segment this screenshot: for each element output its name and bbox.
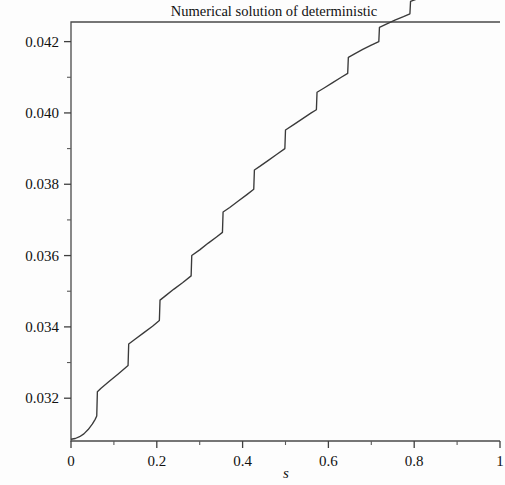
x-tick-label: 0.2 bbox=[147, 453, 166, 469]
x-tick-label: 0.4 bbox=[233, 453, 252, 469]
chart-title: Numerical solution of deterministic bbox=[171, 3, 378, 19]
x-tick-label: 0.8 bbox=[405, 453, 424, 469]
numerical-solution-chart: Numerical solution of deterministic 0.03… bbox=[0, 0, 505, 485]
x-tick-label: 0 bbox=[67, 453, 75, 469]
y-tick-label: 0.038 bbox=[25, 176, 59, 192]
y-tick-label: 0.034 bbox=[25, 319, 59, 335]
y-tick-label: 0.032 bbox=[25, 390, 59, 406]
chart-figure: Numerical solution of deterministic 0.03… bbox=[0, 0, 505, 485]
x-axis-label: s bbox=[283, 465, 289, 481]
plot-frame bbox=[71, 22, 500, 441]
y-axis-tick-labels: 0.0320.0340.0360.0380.0400.042 bbox=[25, 34, 59, 407]
y-tick-label: 0.040 bbox=[25, 105, 59, 121]
y-tick-label: 0.042 bbox=[25, 34, 59, 50]
x-tick-label: 0.6 bbox=[319, 453, 338, 469]
data-series-line bbox=[71, 0, 500, 439]
y-tick-label: 0.036 bbox=[25, 248, 59, 264]
x-tick-label: 1 bbox=[496, 453, 504, 469]
